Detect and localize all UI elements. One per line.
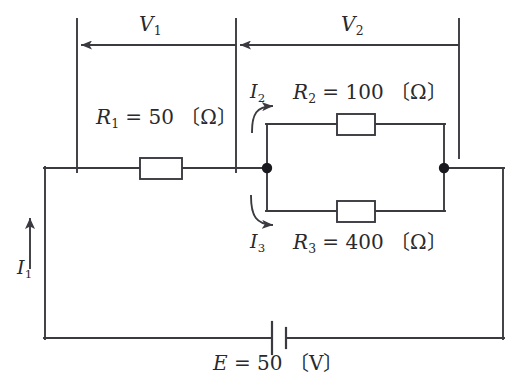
i1-subscript: 1	[25, 267, 33, 281]
r3-value: 400	[345, 230, 383, 254]
r2-symbol: R	[293, 80, 308, 104]
junction-nodes	[262, 163, 449, 173]
i3-label: I3	[250, 232, 265, 251]
i2-subscript: 2	[258, 91, 266, 105]
r2-subscript: 2	[308, 91, 316, 106]
r3-equals: =	[322, 230, 339, 254]
source-value: 50	[257, 351, 282, 375]
r1-symbol: R	[96, 105, 111, 129]
r1-unit-open: 〔	[180, 105, 200, 129]
source-unit-open: 〔	[289, 351, 309, 375]
r2-value: 100	[345, 80, 383, 104]
r1-subscript: 1	[111, 116, 119, 131]
battery-symbol	[272, 322, 286, 354]
r1-equals: =	[125, 105, 142, 129]
junction-node-right	[439, 163, 449, 173]
r3-symbol: R	[293, 230, 308, 254]
r2-unit-open: 〔	[390, 80, 410, 104]
source-unit: V	[309, 351, 323, 375]
r2-label: R2 = 100 〔Ω〕	[293, 82, 447, 102]
junction-node-left	[262, 163, 272, 173]
r2-unit-close: 〕	[427, 80, 447, 104]
r1-resistor-body	[140, 158, 182, 179]
v1-subscript: 1	[154, 23, 162, 38]
v2-label: V2	[341, 14, 363, 34]
i3-symbol: I	[250, 230, 258, 252]
r3-resistor-body	[337, 201, 375, 222]
circuit-schematic-graphic	[0, 0, 520, 388]
r1-label: R1 = 50 〔Ω〕	[96, 107, 237, 127]
r1-unit: Ω	[200, 105, 217, 129]
source-equals: =	[234, 351, 251, 375]
source-unit-close: 〕	[323, 351, 343, 375]
circuit-diagram: V1 V2 R1 = 50 〔Ω〕 R2 = 100 〔Ω〕 R3 = 400 …	[0, 0, 520, 388]
i2-label: I2	[250, 82, 265, 101]
i2-symbol: I	[250, 80, 258, 102]
r1-value: 50	[148, 105, 173, 129]
i1-label: I1	[17, 258, 32, 277]
r2-resistor-body	[337, 114, 375, 135]
source-label: E = 50 〔V〕	[213, 353, 343, 373]
i1-symbol: I	[17, 256, 25, 278]
r3-subscript: 3	[308, 241, 316, 256]
v2-subscript: 2	[356, 23, 364, 38]
i3-subscript: 3	[258, 241, 266, 255]
r1-unit-close: 〕	[217, 105, 237, 129]
r2-equals: =	[322, 80, 339, 104]
r3-unit: Ω	[410, 230, 427, 254]
v2-symbol: V	[341, 12, 355, 36]
v1-symbol: V	[139, 12, 153, 36]
i2-current-arrow	[252, 106, 272, 132]
source-symbol: E	[213, 351, 228, 375]
r3-label: R3 = 400 〔Ω〕	[293, 232, 447, 252]
r3-unit-close: 〕	[427, 230, 447, 254]
v1-label: V1	[139, 14, 161, 34]
r3-unit-open: 〔	[390, 230, 410, 254]
r2-unit: Ω	[410, 80, 427, 104]
